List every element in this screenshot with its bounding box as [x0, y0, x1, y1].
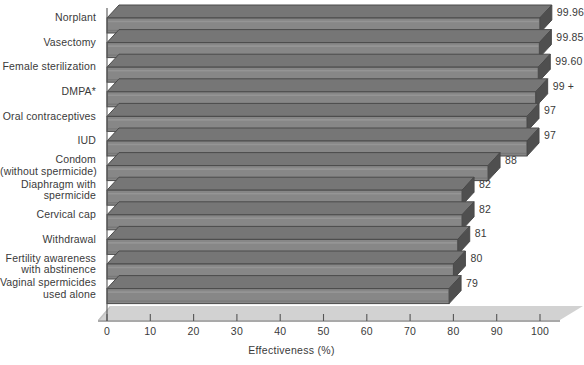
x-tick-label: 20 — [174, 325, 214, 337]
x-tick-label: 30 — [217, 325, 257, 337]
x-tick-label: 40 — [260, 325, 300, 337]
x-tick-label: 10 — [130, 325, 170, 337]
x-tick-label: 70 — [390, 325, 430, 337]
x-tick-label: 60 — [347, 325, 387, 337]
x-axis-title: Effectiveness (%) — [0, 344, 583, 356]
x-tick-label: 100 — [520, 325, 560, 337]
x-tick-label: 80 — [433, 325, 473, 337]
x-axis-title-text: Effectiveness (%) — [248, 344, 335, 356]
x-tick-label: 50 — [304, 325, 344, 337]
x-tick-label: 90 — [477, 325, 517, 337]
x-tick-label: 0 — [87, 325, 127, 337]
